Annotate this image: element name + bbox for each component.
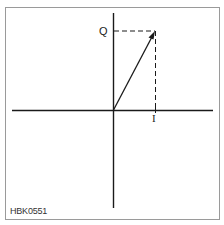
q-axis-label: Q <box>99 25 108 37</box>
arrow-head-icon <box>149 31 156 40</box>
figure-code-label: HBK0551 <box>10 206 47 216</box>
iq-diagram <box>0 0 224 225</box>
i-axis-label: I <box>152 112 156 124</box>
phasor-vector <box>114 34 154 110</box>
